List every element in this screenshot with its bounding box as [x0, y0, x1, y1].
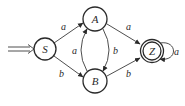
- edge-label: a: [61, 21, 66, 32]
- edge-A-B: b: [103, 29, 118, 71]
- edge-label: a: [174, 46, 179, 57]
- edge-label: a: [126, 21, 131, 32]
- state-A: A: [83, 7, 107, 31]
- edge-A-Z: a: [107, 21, 140, 44]
- state-label: Z: [149, 45, 156, 57]
- edge-label: b: [126, 68, 131, 79]
- state-label: S: [42, 43, 48, 55]
- edge-label: b: [59, 68, 64, 79]
- state-B: B: [83, 69, 107, 93]
- edge-S-B: b: [54, 56, 83, 79]
- edge-label: b: [113, 45, 118, 56]
- state-label: A: [91, 13, 99, 25]
- edge-B-Z: b: [107, 58, 140, 79]
- edge-label: a: [72, 45, 77, 56]
- state-S: S: [34, 38, 56, 60]
- initial-arrow-icon: [8, 45, 34, 54]
- state-Z-accepting: Z: [141, 40, 164, 63]
- edge-S-A: a: [54, 21, 83, 43]
- edge-B-A: a: [72, 29, 87, 71]
- state-label: B: [92, 75, 99, 87]
- automaton-diagram: a b a b a b a S A B Z: [0, 0, 185, 106]
